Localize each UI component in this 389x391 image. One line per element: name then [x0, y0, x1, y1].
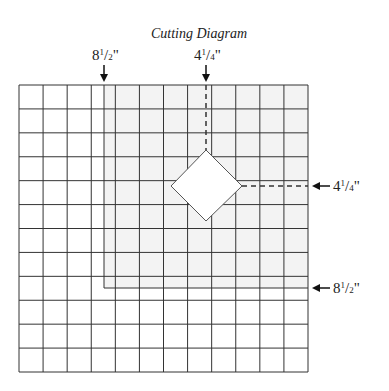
label-right-lower: 81/2" — [333, 280, 360, 296]
diagram-title: Cutting Diagram — [151, 26, 247, 41]
arrow-down-icon — [202, 65, 210, 82]
arrow-left-icon — [312, 182, 330, 190]
label-right-upper: 41/4" — [333, 178, 360, 194]
cutting-diagram: Cutting Diagram 81/2" 41/4" 41/4" 81/2" — [0, 0, 389, 391]
arrow-down-icon — [100, 65, 108, 82]
arrow-left-icon — [312, 284, 330, 292]
label-top-right: 41/4" — [194, 47, 221, 63]
label-top-left: 81/2" — [92, 47, 119, 63]
